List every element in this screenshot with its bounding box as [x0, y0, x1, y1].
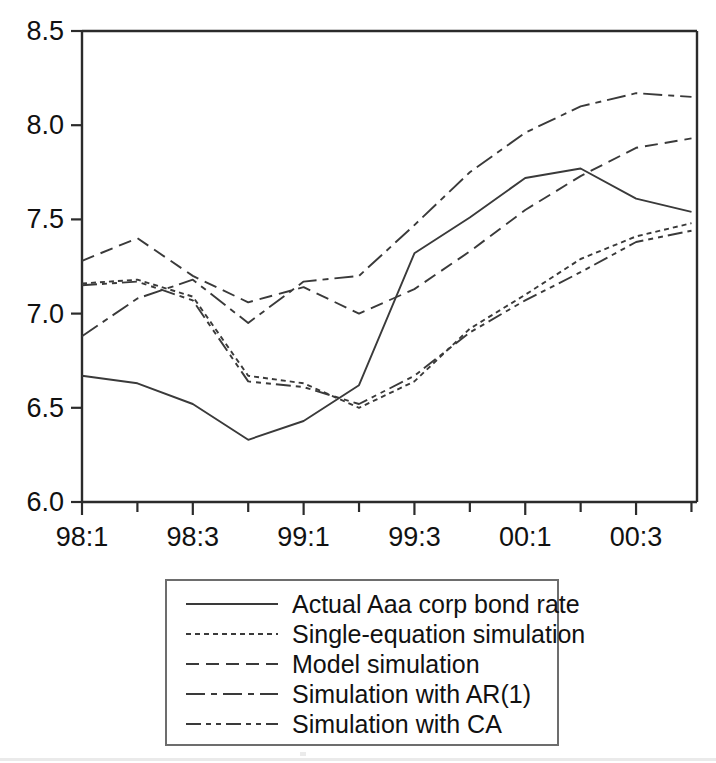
- legend-label-2: Model simulation: [292, 650, 480, 678]
- x-tick-label: 98:1: [56, 522, 109, 552]
- line-chart: 6.06.57.07.58.08.5 98:198:399:199:300:10…: [0, 0, 716, 763]
- x-tick-label: 00:1: [499, 522, 552, 552]
- x-tick-label: 99:1: [277, 522, 330, 552]
- legend-label-0: Actual Aaa corp bond rate: [292, 590, 580, 618]
- x-tick-label: 99:3: [388, 522, 441, 552]
- chart-legend: Actual Aaa corp bond rateSingle-equation…: [166, 580, 585, 745]
- y-tick-label: 8.0: [26, 110, 64, 140]
- chart-figure: 6.06.57.07.58.08.5 98:198:399:199:300:10…: [0, 0, 716, 763]
- x-tick-label: 00:3: [610, 522, 663, 552]
- legend-label-3: Simulation with AR(1): [292, 680, 531, 708]
- y-tick-label: 6.5: [26, 393, 64, 423]
- y-tick-label: 7.5: [26, 204, 64, 234]
- y-tick-label: 8.5: [26, 16, 64, 46]
- legend-label-1: Single-equation simulation: [292, 620, 585, 648]
- y-tick-label: 6.0: [26, 487, 64, 517]
- x-tick-label: 98:3: [167, 522, 220, 552]
- legend-label-4: Simulation with CA: [292, 710, 502, 738]
- y-tick-label: 7.0: [26, 299, 64, 329]
